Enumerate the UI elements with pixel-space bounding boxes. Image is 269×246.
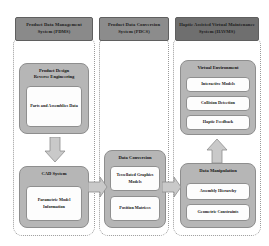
sub-box-geometric-constraints: Geometric Constraints [186, 204, 250, 221]
sub-box-parametric-model-information: Parametric Model Information [26, 186, 82, 221]
group-title-cad-system: CAD System [20, 170, 88, 179]
sub-box-assembly-hierarchy: Assembly Hierarchy [186, 183, 250, 200]
arrow-up-icon-data-manipulation-to-virtual-environment [206, 138, 228, 164]
group-title-virtual-environment: Virtual Environment [181, 64, 255, 73]
header-product-data-conversion-system: Product Data Conversion System (PDCS) [99, 17, 169, 41]
header-product-data-management-system: Product Data Management System (PDMS) [15, 17, 93, 41]
diagram-canvas: Product Data Management System (PDMS) Pr… [0, 0, 269, 246]
arrow-right-icon-cad-to-data-conversion [88, 176, 108, 198]
group-title-line-1: Data Manipulation [183, 168, 253, 174]
group-title-product-design-reverse-engineering: Product Design Reverse Engineering [20, 67, 88, 83]
sub-box-collision-detection: Collision Detection [186, 96, 250, 111]
group-title-line-1: CAD System [22, 171, 86, 177]
group-title-data-manipulation: Data Manipulation [181, 167, 255, 176]
sub-box-interactive-models: Interactive Models [186, 77, 250, 92]
sub-box-position-matrices: Position Matrices [110, 196, 160, 221]
group-title-line-1: Data Conversion [107, 155, 163, 161]
group-title-line-1: Virtual Environment [183, 65, 253, 71]
arrow-down-icon-pdre-to-cad [44, 137, 66, 163]
arrow-right-icon-data-conversion-to-data-manipulation [162, 176, 182, 198]
sub-box-tessellated-graphics-models: Tessellated Graphics Models [110, 166, 160, 191]
group-title-data-conversion: Data Conversion [105, 154, 165, 163]
sub-box-parts-and-assemblies-data: Parts and Assemblies Data [26, 86, 82, 127]
group-title-line-2: Reverse Engineering [22, 74, 86, 80]
header-haptic-assisted-virtual-maintenance-system: Haptic Assisted Virtual Maintenance Syst… [175, 17, 259, 41]
sub-box-haptic-feedback: Haptic Feedback [186, 115, 250, 130]
